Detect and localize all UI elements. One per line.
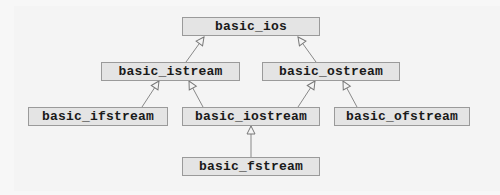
class-basic-ifstream: basic_ifstream <box>28 107 168 126</box>
class-basic-fstream: basic_fstream <box>182 157 320 176</box>
class-basic-iostream: basic_iostream <box>182 107 320 126</box>
class-basic-ios: basic_ios <box>182 17 320 36</box>
class-basic-ofstream: basic_ofstream <box>334 107 470 126</box>
class-basic-istream: basic_istream <box>101 62 240 81</box>
class-basic-ostream: basic_ostream <box>262 62 400 81</box>
